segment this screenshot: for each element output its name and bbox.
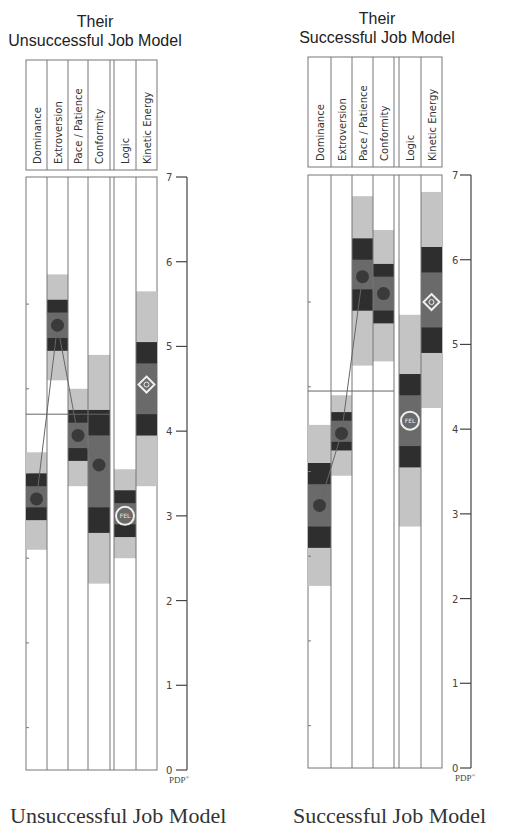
- column-label-extroversion: Extroversion: [53, 101, 64, 164]
- fel-marker-icon: FEL: [116, 507, 134, 525]
- score-dot-icon: [93, 459, 106, 472]
- score-dot-icon: [377, 287, 390, 300]
- left-caption: Unsuccessful Job Model: [10, 803, 226, 829]
- column-label-extroversion: Extroversion: [337, 98, 348, 161]
- y-tick-label: 5: [452, 339, 458, 350]
- right-caption: Successful Job Model: [293, 803, 486, 829]
- y-tick-label: 7: [166, 172, 172, 183]
- column-label-conformity: Conformity: [94, 109, 105, 164]
- y-tick-label: 4: [452, 424, 458, 435]
- y-tick-label: 3: [166, 511, 172, 522]
- pdp-charts: DominanceExtroversionPace / PatienceConf…: [0, 0, 506, 837]
- score-dot-icon: [335, 427, 348, 440]
- svg-text:FEL: FEL: [405, 417, 416, 424]
- right-column-header: DominanceExtroversionPace / PatienceConf…: [308, 57, 442, 167]
- y-tick-label: 7: [452, 170, 458, 181]
- column-label-pace-patience: Pace / Patience: [73, 88, 84, 164]
- y-tick-label: 1: [452, 678, 458, 689]
- score-dot-icon: [30, 492, 43, 505]
- right-chart: DominanceExtroversionPace / PatienceConf…: [308, 57, 476, 783]
- column-label-kinetic-energy: Kinetic Energy: [142, 92, 153, 164]
- left-y-axis: 01234567PDP®: [166, 172, 190, 785]
- pdp-axis-label: PDP®: [455, 773, 476, 783]
- column-label-logic: Logic: [120, 138, 131, 164]
- y-tick-label: 6: [452, 255, 458, 266]
- y-tick-label: 1: [166, 680, 172, 691]
- left-column-header: DominanceExtroversionPace / PatienceConf…: [26, 60, 157, 170]
- pdp-axis-label: PDP®: [169, 775, 190, 785]
- fel-marker-icon: FEL: [401, 412, 419, 430]
- y-tick-label: 2: [166, 596, 172, 607]
- column-label-logic: Logic: [405, 135, 416, 161]
- column-label-kinetic-energy: Kinetic Energy: [427, 89, 438, 161]
- y-tick-label: 2: [452, 594, 458, 605]
- y-tick-label: 5: [166, 341, 172, 352]
- right-y-axis: 01234567PDP®: [452, 170, 476, 783]
- y-tick-label: 4: [166, 426, 172, 437]
- score-dot-icon: [51, 319, 64, 332]
- column-label-dominance: Dominance: [32, 107, 43, 164]
- score-dot-icon: [72, 429, 85, 442]
- svg-text:FEL: FEL: [120, 512, 131, 519]
- y-tick-label: 3: [452, 509, 458, 520]
- column-label-dominance: Dominance: [315, 104, 326, 161]
- score-dot-icon: [313, 499, 326, 512]
- column-label-conformity: Conformity: [379, 106, 390, 161]
- column-label-pace-patience: Pace / Patience: [358, 85, 369, 161]
- score-dot-icon: [356, 270, 369, 283]
- y-tick-label: 6: [166, 257, 172, 268]
- left-chart: DominanceExtroversionPace / PatienceConf…: [26, 60, 190, 785]
